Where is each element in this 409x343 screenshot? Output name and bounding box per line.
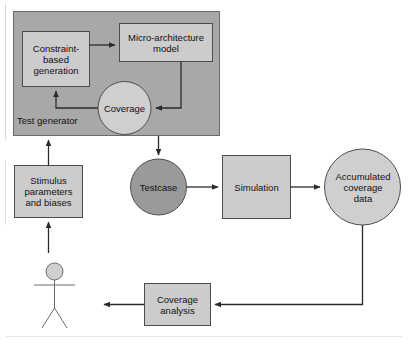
edge-accumulated-to-analysis — [215, 225, 363, 305]
user-stick-figure[interactable] — [34, 263, 75, 328]
micro-architecture-model-box[interactable] — [120, 24, 213, 62]
test-generator-label: Test generator — [17, 115, 78, 126]
testcase-circle[interactable] — [131, 159, 187, 215]
simulation-box[interactable] — [223, 156, 291, 219]
constraint-based-generation-box[interactable] — [23, 32, 90, 87]
stick-figure-leg-right — [55, 308, 68, 328]
coverage-circle[interactable] — [98, 82, 151, 135]
diagram-vector-layer — [0, 0, 409, 343]
stimulus-parameters-box[interactable] — [15, 166, 83, 218]
stick-figure-head-icon — [46, 263, 63, 280]
diagram-canvas: Test generator Constraint- based generat… — [0, 0, 409, 343]
coverage-analysis-box[interactable] — [145, 284, 211, 326]
accumulated-coverage-data-circle[interactable] — [325, 149, 401, 225]
stick-figure-leg-left — [42, 308, 55, 328]
